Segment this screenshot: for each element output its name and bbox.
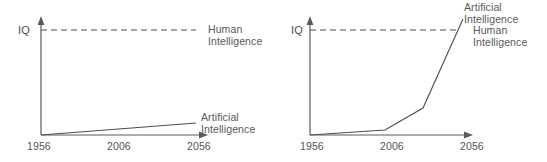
left-human-label-line2: Intelligence [208,35,262,47]
right-human-label-line1: Human [473,24,507,36]
left-ai-label-line2: Intelligence [201,123,255,135]
chart-panel-left: IQ HumanIntelligence ArtificialIntellige… [0,0,273,162]
right-x-axis [310,132,473,139]
left-ai-label-line1: Artificial [201,111,239,123]
right-artificial-intelligence-label: ArtificialIntelligence [464,2,518,25]
left-human-label-line1: Human [208,23,242,35]
right-artificial-intelligence-line [310,19,463,135]
right-x-tick-1956: 1956 [300,141,324,153]
chart-panel-right: IQ ArtificialIntelligence HumanIntellige… [273,0,547,162]
left-y-axis [38,16,45,135]
right-x-tick-2056: 2056 [460,141,484,153]
left-x-tick-1956: 1956 [27,141,51,153]
right-ai-label-line2: Intelligence [464,13,518,25]
left-artificial-intelligence-label: ArtificialIntelligence [201,112,255,135]
right-ai-label-line1: Artificial [464,1,502,13]
left-artificial-intelligence-line [41,123,196,135]
right-x-tick-2006: 2006 [380,141,404,153]
right-human-label-line2: Intelligence [473,36,527,48]
figure-canvas: IQ HumanIntelligence ArtificialIntellige… [0,0,547,162]
right-human-intelligence-label: HumanIntelligence [473,25,527,48]
right-y-axis [307,16,314,135]
right-y-axis-title: IQ [291,25,303,37]
left-x-tick-2006: 2006 [107,141,131,153]
left-y-axis-title: IQ [18,25,30,37]
left-x-tick-2056: 2056 [187,141,211,153]
left-human-intelligence-label: HumanIntelligence [208,24,262,47]
